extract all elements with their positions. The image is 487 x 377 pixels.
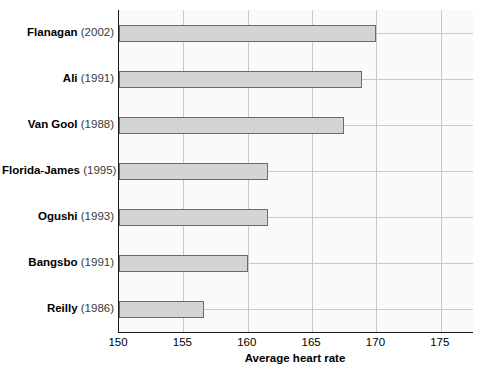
category-label: Ogushi (1993) [2, 210, 114, 223]
category-label: Bangsbo (1991) [2, 256, 114, 269]
category-label: Van Gool (1988) [2, 118, 114, 131]
category-label-author: Florida-James [2, 164, 80, 176]
category-label-year: (1995) [80, 164, 116, 176]
category-label-year: (1986) [78, 302, 114, 314]
x-axis-tick-labels: 150155160165170175 [118, 336, 472, 352]
bar [119, 117, 344, 134]
x-tick-label: 175 [430, 336, 449, 348]
category-label-author: Van Gool [28, 118, 78, 130]
category-axis-labels: Flanagan (2002)Ali (1991)Van Gool (1988)… [0, 10, 114, 332]
bar-row [119, 71, 473, 88]
bar-row [119, 209, 473, 226]
category-label-year: (1991) [78, 72, 114, 84]
bar-row [119, 255, 473, 272]
x-tick-label: 165 [301, 336, 320, 348]
x-tick-label: 170 [366, 336, 385, 348]
bar [119, 163, 268, 180]
bar-row [119, 163, 473, 180]
x-tick-label: 155 [173, 336, 192, 348]
category-label-year: (1993) [78, 210, 114, 222]
category-label: Reilly (1986) [2, 302, 114, 315]
bar [119, 301, 204, 318]
bar-row [119, 301, 473, 318]
category-label-year: (1991) [78, 256, 114, 268]
bar [119, 255, 248, 272]
bar [119, 71, 362, 88]
plot-area [118, 10, 473, 333]
category-label: Florida-James (1995) [2, 164, 114, 177]
category-label: Flanagan (2002) [2, 26, 114, 39]
category-label-author: Bangsbo [28, 256, 77, 268]
x-axis-title: Average heart rate [118, 352, 472, 364]
x-tick-label: 160 [237, 336, 256, 348]
category-label-author: Flanagan [27, 26, 77, 38]
bar [119, 25, 376, 42]
category-label-author: Ogushi [38, 210, 78, 222]
category-label-year: (1988) [78, 118, 114, 130]
bar-row [119, 25, 473, 42]
category-label-year: (2002) [78, 26, 114, 38]
chart-screenshot: Flanagan (2002)Ali (1991)Van Gool (1988)… [0, 0, 487, 377]
bar [119, 209, 268, 226]
bar-row [119, 117, 473, 134]
category-label-author: Reilly [47, 302, 78, 314]
x-tick-label: 150 [108, 336, 127, 348]
category-label-author: Ali [63, 72, 78, 84]
category-label: Ali (1991) [2, 72, 114, 85]
